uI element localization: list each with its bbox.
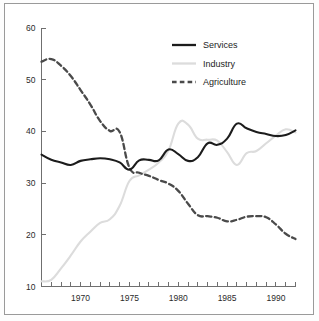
y-tick-label: 60 — [26, 23, 36, 33]
legend-label-services: Services — [203, 40, 238, 50]
x-axis-ticks — [42, 282, 296, 287]
legend-label-agriculture: Agriculture — [203, 77, 246, 87]
series-line-services — [42, 123, 296, 170]
figure-root: 102030405060 19701975198019851990 Servic… — [0, 0, 319, 321]
y-tick-label: 20 — [26, 230, 36, 240]
series-line-industry — [42, 121, 296, 282]
series-lines — [42, 59, 296, 282]
y-tick-label: 40 — [26, 126, 36, 136]
x-tick-label: 1990 — [267, 293, 286, 303]
line-chart: 102030405060 19701975198019851990 Servic… — [0, 0, 319, 321]
x-tick-label: 1975 — [120, 293, 139, 303]
x-tick-label: 1980 — [169, 293, 188, 303]
x-tick-label: 1970 — [71, 293, 90, 303]
x-axis: 19701975198019851990 — [42, 282, 296, 303]
y-tick-label: 10 — [26, 282, 36, 292]
chart-legend: ServicesIndustryAgriculture — [172, 40, 246, 87]
y-tick-label: 50 — [26, 75, 36, 85]
y-axis: 102030405060 — [26, 23, 46, 292]
legend-label-industry: Industry — [203, 59, 236, 69]
x-axis-tick-labels: 19701975198019851990 — [71, 293, 286, 303]
y-axis-tick-labels: 102030405060 — [26, 23, 36, 292]
y-tick-label: 30 — [26, 178, 36, 188]
x-tick-label: 1985 — [218, 293, 237, 303]
